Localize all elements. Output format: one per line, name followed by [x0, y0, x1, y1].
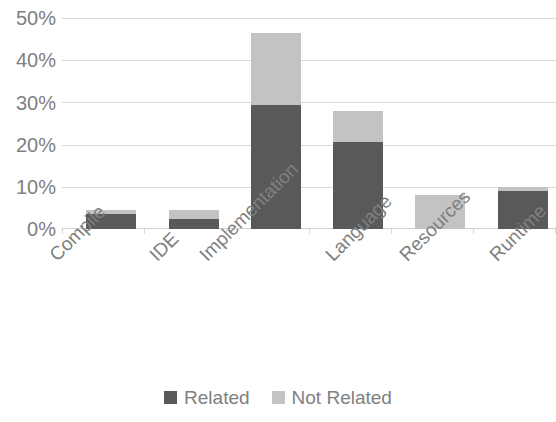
- legend-label: Not Related: [292, 388, 392, 407]
- y-axis-tick-label: 30%: [0, 93, 56, 113]
- gridline-50: [62, 18, 556, 19]
- gridline-20: [62, 145, 556, 146]
- y-axis-tick-label: 0%: [0, 219, 56, 239]
- bar-segment-not-related[interactable]: [333, 111, 383, 142]
- y-axis-tick-label: 50%: [0, 8, 56, 28]
- chart-legend: Related Not Related: [0, 388, 556, 407]
- legend-item-not-related[interactable]: Not Related: [272, 388, 392, 407]
- stacked-bar-chart: 50% 40% 30% 20% 10% 0%: [0, 0, 556, 422]
- x-axis-tick: [144, 229, 145, 234]
- x-axis-tick: [473, 229, 474, 234]
- x-axis-label-ide: IDE: [146, 229, 182, 265]
- bar-ide[interactable]: [169, 210, 219, 229]
- plot-area: [62, 18, 556, 229]
- gridline-30: [62, 102, 556, 103]
- legend-swatch-icon: [272, 391, 285, 404]
- y-axis-tick-label: 10%: [0, 177, 56, 197]
- x-axis-tick: [309, 229, 310, 234]
- bar-segment-not-related[interactable]: [251, 33, 301, 105]
- x-axis-tick: [391, 229, 392, 234]
- y-axis-tick-label: 40%: [0, 50, 56, 70]
- legend-item-related[interactable]: Related: [164, 388, 250, 407]
- bar-segment-not-related[interactable]: [169, 210, 219, 219]
- y-axis-tick-label: 20%: [0, 135, 56, 155]
- bar-segment-related[interactable]: [169, 219, 219, 229]
- y-axis-labels: 50% 40% 30% 20% 10% 0%: [0, 0, 56, 422]
- gridline-10: [62, 187, 556, 188]
- legend-label: Related: [184, 388, 250, 407]
- legend-swatch-icon: [164, 391, 177, 404]
- gridline-40: [62, 60, 556, 61]
